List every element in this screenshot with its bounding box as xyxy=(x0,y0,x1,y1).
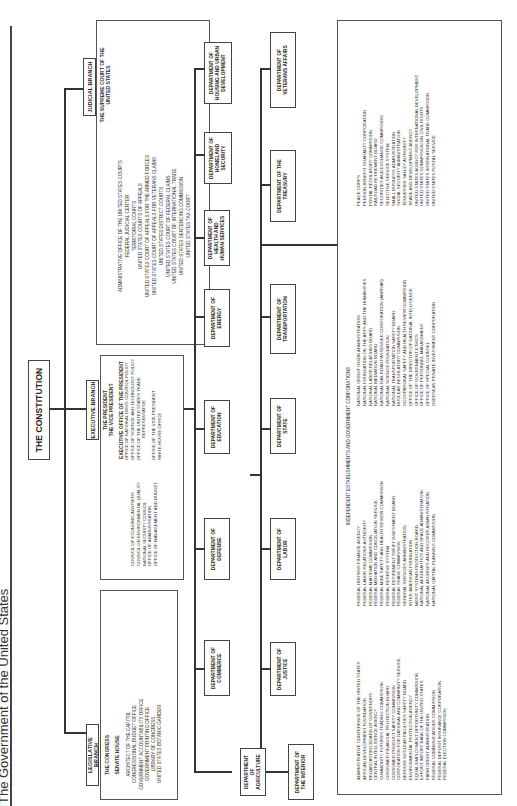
independent-col4: PEACE CORPS PENSION BENEFIT GUARANTY COR… xyxy=(356,75,437,206)
vice-president: THE VICE PRESIDENT xyxy=(108,360,114,460)
independent-heading: INDEPENDENT ESTABLISHMENTS AND GOVERNMEN… xyxy=(346,316,351,576)
list-item: NATIONAL RAILROAD PASSENGER CORPORATION … xyxy=(379,279,385,406)
list-item: NATIONAL FOUNDATION ON THE ARTS AND THE … xyxy=(362,279,368,406)
list-item: ADMINISTRATIVE OFFICE OF THE UNITED STAT… xyxy=(118,116,125,336)
list-item: UNITED STATES COURT OF INTERNATIONAL TRA… xyxy=(172,116,179,336)
congress-heading: THE CONGRESS xyxy=(104,720,110,790)
list-item: FEDERAL ELECTION COMMISSION xyxy=(442,658,448,780)
supreme-court-heading: THE SUPREME COURT OF THE UNITED STATES xyxy=(100,40,111,130)
connector xyxy=(260,69,270,71)
connector xyxy=(194,429,204,431)
list-item: UNITED STATES SENTENCING COMMISSION xyxy=(179,116,186,336)
connector xyxy=(184,409,194,411)
connector xyxy=(250,475,260,477)
independent-col2: FEDERAL HOUSING FINANCE AGENCY FEDERAL L… xyxy=(356,481,437,606)
dept-row1-bus xyxy=(194,69,196,773)
list-item: UNITED STATES COURT OF APPEALS FOR THE A… xyxy=(145,116,152,336)
list-item: COUNCIL ON ENVIRONMENTAL QUALITY xyxy=(136,482,142,566)
dept-commerce: DEPARTMENT OF COMMERCE xyxy=(204,640,230,696)
dept-housing-urban-development: DEPARTMENT OF HOUSING AND URBAN DEVELOPM… xyxy=(204,42,232,104)
connector xyxy=(260,429,270,431)
list-item: OCCUPATIONAL SAFETY AND HEALTH REVIEW CO… xyxy=(402,279,408,406)
dept-labor: DEPARTMENT OF LABOR xyxy=(270,518,296,580)
judicial-agencies: ADMINISTRATIVE OFFICE OF THE UNITED STAT… xyxy=(118,116,193,336)
legislative-agencies: ARCHITECT OF THE CAPITOL CONGRESSIONAL B… xyxy=(126,688,164,800)
dept-veterans-affairs: DEPARTMENT OF VETERANS AFFAIRS xyxy=(270,32,296,108)
title-rule xyxy=(10,26,12,806)
list-item: OVERSEAS PRIVATE INVESTMENT CORPORATION xyxy=(431,279,437,406)
dept-transportation: DEPARTMENT OF TRANSPORTATION xyxy=(270,284,296,354)
connector xyxy=(64,89,66,734)
connector xyxy=(64,733,86,735)
judicial-branch-label: JUDICIAL BRANCH xyxy=(83,58,96,116)
dept-energy: DEPARTMENT OF ENERGY xyxy=(204,289,230,347)
connector xyxy=(194,69,204,71)
constitution-box: THE CONSTITUTION xyxy=(28,360,50,460)
legislative-branch-label: LEGISLATIVE BRANCH xyxy=(86,724,99,786)
list-item: FEDERAL JUDICIAL CENTER xyxy=(125,116,132,336)
chambers: SENATE HOUSE xyxy=(114,720,120,790)
list-item: OFFICE OF THE DIRECTOR OF NATIONAL INTEL… xyxy=(408,279,414,406)
list-item: OFFICE OF SCIENCE AND TECHNOLOGY POLICY xyxy=(130,359,136,460)
list-item: UNITED STATES INTERNATIONAL TRADE COMMIS… xyxy=(425,75,431,206)
list-item: UNITED STATES BOTANIC GARDEN xyxy=(157,688,163,800)
connector xyxy=(194,669,204,671)
connector xyxy=(194,772,232,774)
independent-col1: ADMINISTRATIVE CONFERENCE OF THE UNITED … xyxy=(356,658,448,780)
dept-defense: DEPARTMENT OF DEFENSE xyxy=(204,518,230,580)
list-item: UNITED STATES TAX COURT xyxy=(186,116,193,336)
dept-homeland-security: DEPARTMENT OF HOMELAND SECURITY xyxy=(204,132,232,184)
dept-justice: DEPARTMENT OF JUSTICE xyxy=(270,642,296,696)
list-item: UNITED STATES COURT OF FEDERAL CLAIMS xyxy=(166,116,173,336)
legislative-text: THE CONGRESS SENATE HOUSE xyxy=(104,720,121,790)
list-item: COUNCIL OF ECONOMIC ADVISERS xyxy=(130,482,136,566)
dept-health-human-services: DEPARTMENT OF HEALTH AND HUMAN SERVICES xyxy=(204,210,230,266)
connector xyxy=(260,669,270,671)
connector xyxy=(194,155,204,157)
list-item: FEDERAL MINE SAFETY AND HEALTH REVIEW CO… xyxy=(379,481,385,606)
dept-row2-bus xyxy=(260,69,262,773)
connector xyxy=(194,317,204,319)
connector xyxy=(260,549,270,551)
list-item: OFFICE OF MANAGEMENT AND BUDGET xyxy=(153,482,159,566)
list-item: TERRITORIAL COURTS xyxy=(132,116,139,336)
connector-to-independent xyxy=(260,245,337,247)
list-item: GOVERNMENT ACCOUNTABILITY OFFICE xyxy=(139,688,145,800)
supreme-court: THE SUPREME COURT OF THE UNITED STATES xyxy=(100,40,111,130)
dept-state: DEPARTMENT OF STATE xyxy=(270,398,296,454)
dept-treasury: DEPARTMENT OF THE TREASURY xyxy=(270,150,296,222)
org-chart: The Government of the United States THE … xyxy=(0,0,517,806)
list-item: NATIONAL ARCHIVES AND RECORDS ADMINISTRA… xyxy=(425,481,431,606)
list-item: ADMINISTRATIVE CONFERENCE OF THE UNITED … xyxy=(356,658,362,780)
list-item: OFFICE OF NATIONAL DRUG CONTROL POLICY xyxy=(124,359,130,460)
eop-heading: EXECUTIVE OFFICE OF THE PRESIDENT xyxy=(118,360,124,460)
dept-agriculture: DEPARTMENT OF AGRICULTURE xyxy=(240,748,266,796)
list-item: NATIONAL CAPITAL PLANNING COMMISSION xyxy=(431,481,437,606)
eop-left-list: COUNCIL OF ECONOMIC ADVISERS COUNCIL ON … xyxy=(130,482,159,566)
eop-right-list: OFFICE OF NATIONAL DRUG CONTROL POLICY O… xyxy=(124,359,163,460)
connector xyxy=(260,317,270,319)
executive-heads: THE PRESIDENT THE VICE PRESIDENT EXECUTI… xyxy=(102,360,124,460)
list-item: UNITED STATES COURTS OF APPEALS xyxy=(138,116,145,336)
connector xyxy=(260,185,270,187)
list-item: WHITE HOUSE OFFICE xyxy=(157,359,163,460)
connector xyxy=(194,238,204,240)
dept-interior: DEPARTMENT OF THE INTERIOR xyxy=(288,744,314,800)
connector xyxy=(194,549,204,551)
list-item: UNITED STATES POSTAL SERVICE xyxy=(431,75,437,206)
dept-education: DEPARTMENT OF EDUCATION xyxy=(204,400,230,454)
list-item: UNITED STATES DISTRICT COURTS xyxy=(159,116,166,336)
executive-branch-label: EXECUTIVE BRANCH xyxy=(86,380,99,440)
list-item: UNITED STATES COURT OF APPEALS FOR VETER… xyxy=(152,116,159,336)
independent-col3: NATIONAL CREDIT UNION ADMINISTRATION NAT… xyxy=(356,279,437,406)
